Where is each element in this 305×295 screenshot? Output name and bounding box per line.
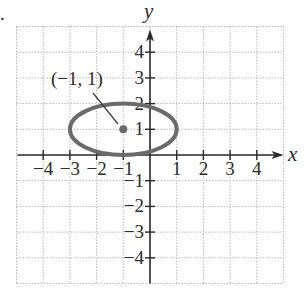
- y-axis-label: y: [142, 0, 154, 23]
- y-tick-label: 1: [135, 118, 145, 139]
- center-annotation-label: (−1, 1): [51, 68, 103, 90]
- x-tick-labels: −4−3−2−11234: [33, 158, 262, 179]
- x-tick-label: 3: [225, 158, 235, 179]
- x-tick-label: 2: [199, 158, 209, 179]
- y-tick-label: −1: [124, 170, 144, 191]
- x-tick-label: 4: [252, 158, 262, 179]
- y-tick-label: 4: [135, 41, 145, 62]
- y-tick-label: −2: [124, 195, 144, 216]
- y-tick-label: −4: [124, 247, 145, 268]
- center-point: [119, 125, 127, 133]
- x-tick-label: 1: [172, 158, 182, 179]
- x-axis-label: x: [287, 142, 298, 166]
- x-tick-label: −4: [33, 158, 54, 179]
- coordinate-plane: −4−3−2−11234 −4−3−2−11234 (−1, 1) x y .: [0, 0, 305, 295]
- figure-marker: .: [0, 3, 5, 24]
- x-tick-label: −2: [86, 158, 106, 179]
- y-tick-label: 3: [135, 67, 145, 88]
- x-tick-label: −3: [60, 158, 80, 179]
- y-tick-label: −3: [124, 221, 144, 242]
